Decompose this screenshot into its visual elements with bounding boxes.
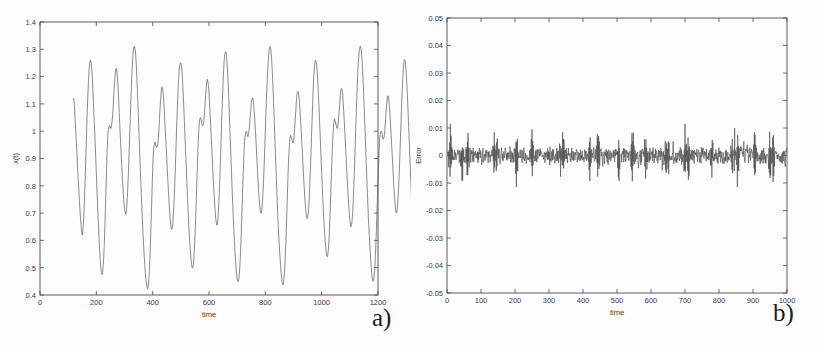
panel-b-error-series: 01002003004005006007008009001000-0.05-0.… — [411, 0, 822, 352]
panel-a-letter: a) — [372, 305, 391, 330]
x-tick-label: 800 — [259, 298, 272, 307]
y-tick-label: -0.02 — [426, 206, 443, 215]
x-tick-label: 200 — [90, 298, 103, 307]
x-tick-label: 900 — [747, 296, 760, 305]
y-tick-label: 0.03 — [428, 69, 443, 78]
y-tick-label: 1.1 — [26, 100, 36, 109]
y-tick-label: 0 — [439, 151, 443, 160]
x-tick-label: 400 — [577, 296, 590, 305]
x-tick-label: 0 — [445, 296, 449, 305]
y-axis-label: x(t) — [11, 153, 20, 164]
y-tick-label: 1.2 — [26, 72, 36, 81]
y-tick-label: 1.3 — [26, 45, 36, 54]
panel-a-time-series: 0200400600800100012000.40.50.60.70.80.91… — [0, 0, 411, 352]
series-line-xt — [74, 46, 411, 288]
y-tick-label: 0.7 — [26, 209, 36, 218]
x-tick-label: 600 — [203, 298, 216, 307]
y-tick-label: 0.01 — [428, 124, 443, 133]
panel-a-plot: 0200400600800100012000.40.50.60.70.80.91… — [0, 0, 411, 352]
series-line-error — [447, 124, 787, 187]
y-tick-label: 1.4 — [26, 18, 36, 27]
x-tick-label: 800 — [713, 296, 726, 305]
axis-frame — [447, 18, 787, 293]
y-tick-label: 0.4 — [26, 291, 36, 300]
x-tick-label: 300 — [543, 296, 556, 305]
y-tick-label: -0.01 — [426, 179, 443, 188]
axis-frame — [40, 22, 378, 295]
panel-b-letter: b) — [773, 300, 794, 325]
x-tick-label: 0 — [38, 298, 42, 307]
y-tick-label: -0.04 — [426, 261, 443, 270]
y-tick-label: 0.5 — [26, 264, 36, 273]
x-tick-label: 100 — [475, 296, 488, 305]
y-axis-label: Error — [414, 147, 423, 164]
y-tick-label: -0.05 — [426, 289, 443, 298]
panel-b-plot: 01002003004005006007008009001000-0.05-0.… — [411, 0, 822, 352]
y-tick-label: 1 — [32, 127, 36, 136]
x-tick-label: 500 — [611, 296, 624, 305]
y-tick-label: 0.04 — [428, 41, 443, 50]
x-tick-label: 600 — [645, 296, 658, 305]
y-tick-label: 0.02 — [428, 96, 443, 105]
y-tick-label: 0.8 — [26, 182, 36, 191]
y-tick-label: 0.05 — [428, 14, 443, 23]
x-tick-label: 400 — [146, 298, 159, 307]
figure-root: 0200400600800100012000.40.50.60.70.80.91… — [0, 0, 822, 352]
x-axis-label: time — [202, 310, 216, 319]
y-tick-label: 0.9 — [26, 154, 36, 163]
x-axis-label: time — [610, 308, 624, 317]
y-tick-label: -0.03 — [426, 234, 443, 243]
x-tick-label: 1000 — [313, 298, 330, 307]
x-tick-label: 200 — [509, 296, 522, 305]
y-tick-label: 0.6 — [26, 236, 36, 245]
x-tick-label: 700 — [679, 296, 692, 305]
